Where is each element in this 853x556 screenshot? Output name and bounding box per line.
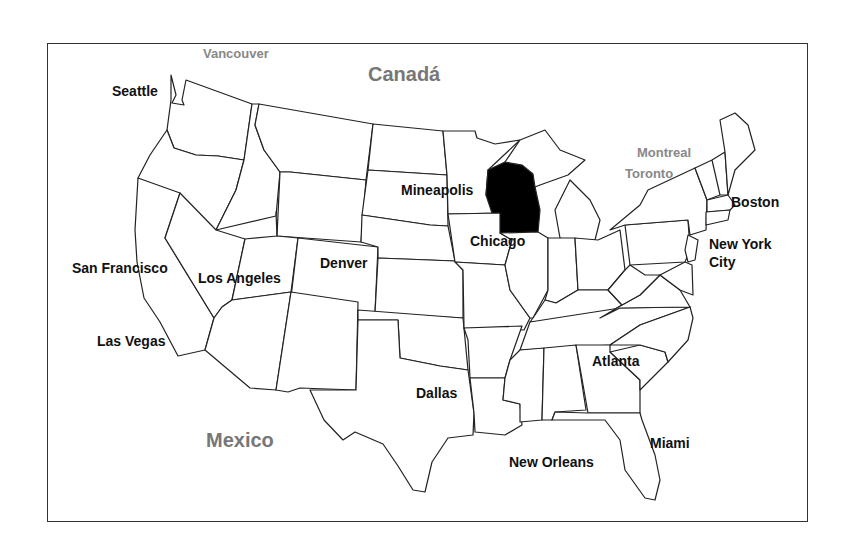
city-label-boston: Boston xyxy=(731,195,779,210)
city-label-new-orleans: New Orleans xyxy=(509,455,594,470)
state-new-mexico xyxy=(276,292,358,392)
state-washington xyxy=(167,75,252,160)
state-wyoming xyxy=(277,172,366,242)
city-label-las-vegas: Las Vegas xyxy=(97,334,166,349)
city-label-mineapolis: Mineapolis xyxy=(401,183,473,198)
city-label-new-york-city: City xyxy=(709,255,735,270)
city-label-toronto: Toronto xyxy=(625,167,673,181)
city-label-seattle: Seattle xyxy=(112,84,158,99)
city-label-new-york: New York xyxy=(709,237,772,252)
city-label-los-angeles: Los Angeles xyxy=(198,271,281,286)
state-kansas xyxy=(375,258,463,318)
city-label-denver: Denver xyxy=(320,256,367,271)
state-connecticut-ri xyxy=(706,210,730,225)
city-label-san-francisco: San Francisco xyxy=(72,261,168,276)
country-label-canada: Canadá xyxy=(368,64,440,85)
city-label-montreal: Montreal xyxy=(637,146,691,160)
state-pennsylvania xyxy=(625,220,690,265)
city-label-miami: Miami xyxy=(650,436,690,451)
city-label-atlanta: Atlanta xyxy=(592,354,639,369)
city-label-dallas: Dallas xyxy=(416,386,457,401)
state-north-dakota xyxy=(368,124,447,175)
city-label-vancouver: Vancouver xyxy=(203,47,269,61)
state-new-jersey xyxy=(685,235,698,262)
city-label-chicago: Chicago xyxy=(470,234,525,249)
country-label-mexico: Mexico xyxy=(206,430,274,451)
